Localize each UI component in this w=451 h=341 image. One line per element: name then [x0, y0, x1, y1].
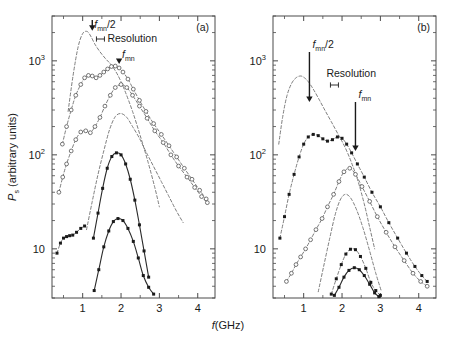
data-point — [331, 138, 334, 141]
data-point — [285, 280, 289, 284]
data-point — [320, 217, 324, 221]
figure-container: 123410310210(a)fmn/2Resolutionfmn 123410… — [0, 0, 451, 341]
panel-a: 123410310210(a)fmn/2Resolutionfmn — [29, 16, 215, 314]
data-point — [147, 286, 150, 289]
arrow-head — [306, 97, 312, 103]
series-curve-a3-open-circles-lower — [57, 83, 209, 205]
data-point — [177, 164, 181, 168]
resolution-label: Resolution — [107, 32, 157, 44]
data-point — [298, 155, 301, 158]
data-point — [137, 256, 140, 259]
data-point — [59, 242, 62, 245]
x-tick-label: 3 — [156, 302, 162, 314]
data-point — [79, 227, 82, 230]
data-point — [133, 199, 136, 202]
data-point — [426, 280, 429, 283]
data-point — [304, 247, 308, 251]
data-point — [309, 238, 313, 242]
data-point — [420, 274, 423, 277]
x-tick-label: 4 — [195, 302, 201, 314]
data-point — [359, 255, 362, 258]
data-point — [61, 175, 65, 179]
data-point — [358, 268, 361, 271]
data-point — [60, 142, 64, 146]
series-curve-a7-low-flat-dots — [55, 225, 86, 255]
data-point — [294, 263, 298, 267]
data-point — [94, 76, 98, 80]
data-point — [190, 177, 194, 181]
data-point — [353, 266, 356, 269]
data-point — [113, 64, 117, 68]
resolution-marker — [330, 82, 338, 87]
data-point — [364, 267, 367, 270]
data-point — [379, 205, 382, 208]
x-tick-label: 3 — [377, 302, 383, 314]
data-point — [288, 193, 291, 196]
series-line — [59, 85, 207, 203]
data-point — [115, 151, 118, 154]
fmn-label: fmn — [122, 48, 135, 62]
data-point — [57, 190, 61, 194]
two-panel-log-plot: 123410310210(a)fmn/2Resolutionfmn 123410… — [0, 0, 451, 341]
data-point — [356, 162, 359, 165]
series-line — [62, 66, 206, 199]
data-point — [363, 274, 366, 277]
data-point — [69, 149, 73, 153]
fmn-label: fmn — [358, 88, 371, 102]
data-point — [62, 237, 65, 240]
data-point — [336, 135, 339, 138]
data-point — [132, 240, 135, 243]
data-point — [113, 86, 117, 90]
data-point — [65, 125, 69, 129]
data-point — [152, 293, 155, 296]
data-point — [90, 74, 94, 78]
data-point — [124, 162, 127, 165]
data-point — [205, 201, 209, 205]
data-point — [98, 74, 102, 78]
data-point — [92, 237, 95, 240]
data-point — [302, 143, 305, 146]
data-point — [121, 70, 125, 74]
data-point — [354, 248, 357, 251]
fmn-half-label: fmn/2 — [94, 18, 116, 32]
data-point — [299, 255, 303, 259]
fmn-half-label: fmn/2 — [312, 38, 334, 52]
series-curve-a6-solid-dots-low — [93, 217, 155, 296]
x-tick-label: 1 — [80, 302, 86, 314]
data-point — [200, 195, 204, 199]
data-point — [312, 133, 315, 136]
data-point — [348, 166, 352, 170]
data-point — [145, 116, 149, 120]
data-point — [131, 93, 135, 97]
data-point — [97, 268, 100, 271]
data-point — [152, 122, 156, 126]
data-point — [143, 249, 146, 252]
data-point — [393, 245, 397, 249]
data-point — [377, 295, 380, 298]
y-tick-label: 102 — [250, 147, 266, 161]
data-point — [350, 151, 353, 154]
data-point — [65, 162, 69, 166]
data-point — [373, 291, 376, 294]
panel-label: (b) — [417, 21, 430, 33]
arrow-head — [352, 145, 358, 151]
data-point — [74, 138, 78, 142]
data-point — [283, 215, 286, 218]
x-axis-title: f(GHz) — [212, 319, 244, 331]
series-line — [279, 76, 375, 249]
data-point — [142, 274, 145, 277]
data-point — [337, 180, 341, 184]
data-point — [147, 276, 150, 279]
data-point — [337, 286, 340, 289]
data-point — [193, 186, 197, 190]
data-point — [330, 293, 333, 296]
data-point — [341, 137, 344, 140]
data-point — [161, 141, 165, 145]
data-point — [138, 104, 142, 108]
data-point — [425, 284, 429, 288]
data-point — [342, 170, 346, 174]
resolution-marker — [96, 36, 104, 41]
data-point — [79, 83, 83, 87]
data-point — [83, 225, 86, 228]
data-point — [117, 66, 121, 70]
